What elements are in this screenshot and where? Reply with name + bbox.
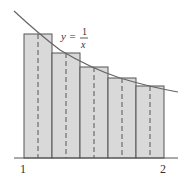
x-label-1: 1	[20, 162, 26, 176]
function-label-lhs: y =	[60, 30, 76, 42]
x-label-2: 2	[160, 162, 166, 176]
function-label-numerator: 1	[82, 26, 87, 37]
rectangle-3	[80, 67, 108, 158]
function-label-denominator: x	[80, 39, 86, 50]
riemann-sum-diagram: y = 1 x 1 2	[0, 0, 191, 181]
